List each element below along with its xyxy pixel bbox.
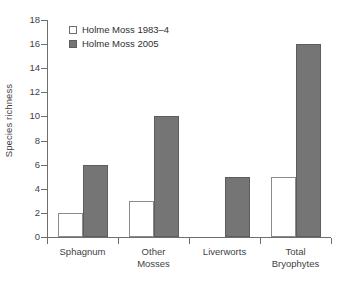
bar-1-2	[225, 177, 250, 237]
x-tick-0	[47, 238, 48, 244]
y-tick-label-wrap-0: 0	[0, 232, 40, 242]
legend-swatch-light-icon	[69, 26, 77, 34]
x-tick-1	[118, 238, 119, 244]
legend-item-0: Holme Moss 1983–4	[69, 24, 169, 36]
y-tick-label-wrap-2: 2	[0, 208, 40, 218]
y-tick-label-wrap-6: 6	[0, 160, 40, 170]
x-tick-3	[260, 238, 261, 244]
legend-label-0: Holme Moss 1983–4	[82, 25, 169, 35]
legend-label-1: Holme Moss 2005	[82, 39, 159, 49]
y-tick-label-wrap-12: 12	[0, 87, 40, 97]
y-tick-label-wrap-4: 4	[0, 184, 40, 194]
y-tick-label-12: 12	[2, 87, 40, 97]
legend-item-1: Holme Moss 2005	[69, 38, 169, 50]
y-tick-label-0: 0	[2, 232, 40, 242]
x-tick-2	[189, 238, 190, 244]
y-tick-label-10: 10	[2, 111, 40, 121]
y-tick-label-4: 4	[2, 184, 40, 194]
y-tick-label-16: 16	[2, 39, 40, 49]
bar-chart: Species richness 181614121086420 Sphagnu…	[0, 0, 346, 284]
bar-1-1	[154, 116, 179, 237]
x-category-label-3: TotalBryophytes	[250, 246, 341, 269]
y-tick-label-wrap-14: 14	[0, 63, 40, 73]
x-tick-4	[331, 238, 332, 244]
x-category-label-line2-1: Mosses	[108, 258, 199, 270]
y-tick-label-6: 6	[2, 160, 40, 170]
plot-area	[47, 20, 331, 237]
bar-0-1	[129, 201, 154, 237]
bar-0-0	[58, 213, 83, 237]
bar-1-3	[296, 44, 321, 237]
y-tick-label-wrap-16: 16	[0, 39, 40, 49]
y-tick-label-2: 2	[2, 208, 40, 218]
y-tick-label-wrap-18: 18	[0, 15, 40, 25]
legend-swatch-dark-icon	[69, 40, 77, 48]
y-tick-label-wrap-8: 8	[0, 136, 40, 146]
y-tick-label-wrap-10: 10	[0, 111, 40, 121]
legend: Holme Moss 1983–4 Holme Moss 2005	[69, 24, 169, 52]
y-tick-label-14: 14	[2, 63, 40, 73]
y-tick-label-8: 8	[2, 136, 40, 146]
bar-0-3	[271, 177, 296, 237]
x-category-label-line1-3: Total	[250, 246, 341, 258]
x-category-label-line2-3: Bryophytes	[250, 258, 341, 270]
y-tick-label-18: 18	[2, 15, 40, 25]
bar-1-0	[83, 165, 108, 237]
